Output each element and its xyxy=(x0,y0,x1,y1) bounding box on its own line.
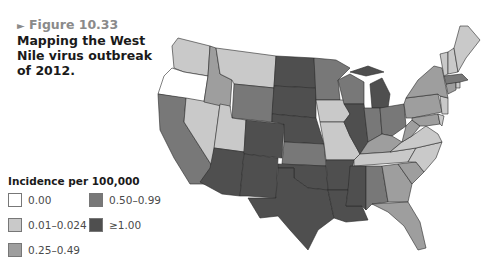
state-FL xyxy=(372,202,426,250)
legend-title: Incidence per 100,000 xyxy=(8,175,218,187)
legend-item: 0.25–0.49 xyxy=(8,243,80,257)
legend-label: 0.25–0.49 xyxy=(28,244,80,256)
legend-item: ≥1.00 xyxy=(89,218,141,232)
legend: Incidence per 100,000 0.00 0.01–0.024 0.… xyxy=(8,175,218,268)
legend-swatch xyxy=(89,193,103,207)
state-CO xyxy=(244,120,284,158)
legend-swatch xyxy=(8,218,22,232)
state-RI xyxy=(456,82,460,88)
legend-label: ≥1.00 xyxy=(109,219,141,231)
figure-title: Mapping the West Nile virus outbreak of … xyxy=(17,33,152,78)
state-NM xyxy=(240,154,278,198)
state-OH xyxy=(380,104,406,136)
figure-caption: ► Figure 10.33 Mapping the West Nile vir… xyxy=(17,17,167,78)
legend-label: 0.50–0.99 xyxy=(109,194,161,206)
state-NY xyxy=(406,66,448,98)
legend-item: 0.00 xyxy=(8,193,51,207)
legend-swatch xyxy=(8,193,22,207)
state-KS xyxy=(282,142,326,166)
legend-swatch xyxy=(8,243,22,257)
legend-label: 0.01–0.024 xyxy=(28,219,87,231)
state-MA xyxy=(444,74,468,84)
legend-swatch xyxy=(89,218,103,232)
legend-item: 0.01–0.024 xyxy=(8,218,87,232)
state-SD xyxy=(272,86,316,118)
legend-label: 0.00 xyxy=(28,194,51,206)
state-ME xyxy=(454,26,480,72)
arrow-icon: ► xyxy=(17,20,25,31)
figure-label: Figure 10.33 xyxy=(29,17,118,32)
state-ND xyxy=(274,56,316,88)
state-WY xyxy=(232,84,274,122)
state-WI xyxy=(338,74,364,104)
legend-item: 0.50–0.99 xyxy=(89,193,161,207)
